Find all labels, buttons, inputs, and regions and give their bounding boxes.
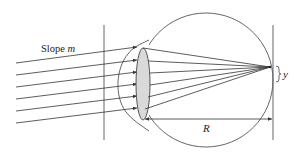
slope-label: Slope m <box>41 43 76 54</box>
distance-R-label: R <box>202 122 210 134</box>
lens <box>136 48 150 120</box>
displacement-y-brace <box>276 66 281 82</box>
focal-point <box>269 66 271 68</box>
eye-optics-diagram: Slope m y R <box>0 0 297 162</box>
displacement-y-label: y <box>282 68 288 80</box>
